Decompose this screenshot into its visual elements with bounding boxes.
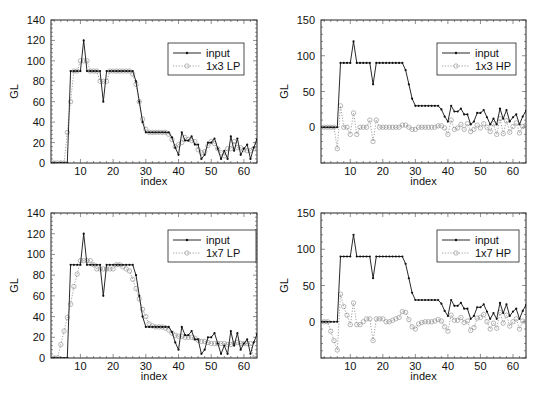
x-tick-label: 50 bbox=[474, 360, 486, 372]
data-point-input bbox=[171, 331, 173, 333]
data-point-input bbox=[236, 332, 238, 334]
data-point-filtered bbox=[527, 125, 531, 129]
data-point-input bbox=[473, 315, 475, 317]
data-point-input bbox=[217, 342, 219, 344]
data-point-input bbox=[440, 108, 442, 110]
data-point-input bbox=[505, 109, 507, 111]
data-point-input bbox=[515, 308, 517, 310]
y-tick-label: 100 bbox=[27, 55, 45, 67]
data-point-input bbox=[382, 255, 384, 257]
x-tick-label: 10 bbox=[344, 165, 356, 177]
y-tick-label: 150 bbox=[297, 207, 315, 219]
data-point-filtered bbox=[442, 325, 446, 329]
data-point-input bbox=[145, 326, 147, 328]
data-point-input bbox=[359, 255, 361, 257]
x-axis-title: index bbox=[410, 370, 437, 382]
data-point-input bbox=[395, 255, 397, 257]
data-point-input bbox=[99, 264, 101, 266]
legend: input1x3 LP bbox=[168, 43, 244, 75]
data-point-input bbox=[53, 162, 55, 164]
data-point-filtered bbox=[517, 327, 521, 331]
data-point-input bbox=[447, 120, 449, 122]
data-point-input bbox=[112, 264, 114, 266]
y-tick-label: 20 bbox=[33, 137, 45, 149]
data-point-input bbox=[174, 147, 176, 149]
x-tick-label: 50 bbox=[205, 165, 217, 177]
y-tick-label: 60 bbox=[33, 290, 45, 302]
data-point-input bbox=[226, 353, 228, 355]
plot-frame bbox=[321, 20, 526, 163]
legend-label-filtered: 1x7 HP bbox=[475, 247, 511, 259]
data-point-input bbox=[66, 162, 68, 164]
data-point-input bbox=[343, 255, 345, 257]
data-point-input bbox=[99, 70, 101, 72]
data-point-input bbox=[431, 105, 433, 107]
data-point-filtered bbox=[124, 267, 128, 271]
data-point-input bbox=[369, 62, 371, 64]
y-tick-label: 80 bbox=[33, 269, 45, 281]
data-point-input bbox=[525, 304, 527, 306]
data-point-input bbox=[391, 255, 393, 257]
data-point-input bbox=[73, 70, 75, 72]
data-point-input bbox=[437, 105, 439, 107]
data-point-input bbox=[444, 115, 446, 117]
data-point-input bbox=[336, 321, 338, 323]
data-point-input bbox=[76, 264, 78, 266]
y-axis-title: GL bbox=[8, 278, 20, 293]
data-point-input bbox=[411, 98, 413, 100]
x-tick-label: 40 bbox=[442, 360, 454, 372]
data-point-input bbox=[359, 62, 361, 64]
data-point-input bbox=[204, 349, 206, 351]
data-point-input bbox=[141, 315, 143, 317]
data-point-input bbox=[333, 126, 335, 128]
data-point-input bbox=[128, 70, 130, 72]
data-point-input bbox=[405, 263, 407, 265]
data-point-input bbox=[240, 154, 242, 156]
data-point-input bbox=[466, 113, 468, 115]
data-point-input bbox=[200, 158, 202, 160]
data-point-input bbox=[240, 349, 242, 351]
data-point-input bbox=[213, 332, 215, 334]
data-point-input bbox=[233, 344, 235, 346]
data-point-input bbox=[323, 126, 325, 128]
data-point-input bbox=[66, 357, 68, 359]
data-point-input bbox=[105, 70, 107, 72]
data-point-filtered bbox=[258, 161, 262, 165]
series-line-1x7-hp bbox=[321, 294, 529, 350]
data-point-input bbox=[382, 62, 384, 64]
data-point-filtered bbox=[442, 126, 446, 130]
data-point-filtered bbox=[345, 313, 349, 317]
data-point-filtered bbox=[472, 325, 476, 329]
data-point-input bbox=[385, 255, 387, 257]
data-point-input bbox=[217, 148, 219, 150]
data-point-input bbox=[158, 326, 160, 328]
data-point-filtered bbox=[368, 317, 372, 321]
legend-marker-input bbox=[455, 52, 457, 54]
data-point-input bbox=[479, 306, 481, 308]
data-point-input bbox=[259, 138, 261, 140]
data-point-input bbox=[356, 62, 358, 64]
legend-marker-input bbox=[186, 52, 188, 54]
y-tick-label: 80 bbox=[33, 75, 45, 87]
data-point-input bbox=[171, 136, 173, 138]
data-point-input bbox=[109, 70, 111, 72]
data-point-input bbox=[447, 315, 449, 317]
data-point-input bbox=[50, 162, 52, 164]
data-point-input bbox=[220, 158, 222, 160]
y-tick-label: 40 bbox=[33, 311, 45, 323]
x-axis-title: index bbox=[410, 175, 437, 187]
data-point-input bbox=[346, 255, 348, 257]
data-point-input bbox=[181, 326, 183, 328]
data-point-input bbox=[207, 336, 209, 338]
x-tick-label: 50 bbox=[205, 360, 217, 372]
x-tick-label: 40 bbox=[172, 360, 184, 372]
figure-2x2-panels: 102030405060020406080100120140indexGLinp… bbox=[0, 0, 539, 401]
legend: input1x7 HP bbox=[437, 230, 519, 262]
data-point-input bbox=[378, 255, 380, 257]
data-point-input bbox=[86, 264, 88, 266]
data-point-input bbox=[92, 70, 94, 72]
data-point-input bbox=[326, 126, 328, 128]
data-point-input bbox=[191, 135, 193, 137]
data-point-input bbox=[405, 69, 407, 71]
data-point-input bbox=[330, 126, 332, 128]
